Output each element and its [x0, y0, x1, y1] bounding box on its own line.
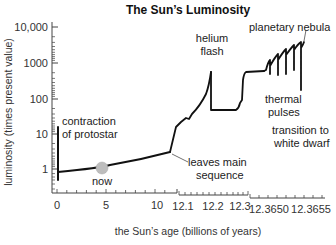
x-tick-10: 10 — [151, 199, 163, 211]
annotation-now: now — [92, 175, 112, 187]
now-marker — [96, 162, 108, 174]
annotation-thermal: thermal — [265, 93, 302, 105]
annotation-sequence: sequence — [196, 169, 244, 181]
x-tick-12-3655: 12.3655 — [291, 203, 331, 215]
annotation-helium: helium — [196, 32, 228, 44]
y-tick-10000: 10,000 — [14, 21, 48, 33]
x-tick-0: 0 — [54, 199, 60, 211]
x-axis-label: the Sun’s age (billions of years) — [115, 225, 261, 237]
x-tick-12-1: 12.1 — [172, 200, 193, 212]
chart-title: The Sun’s Luminosity — [126, 3, 251, 17]
y-tick-10: 10 — [36, 128, 48, 140]
y-tick-100: 100 — [30, 93, 48, 105]
annotation-protostar: of protostar — [62, 128, 118, 140]
annotation-planetary-nebula: planetary nebula — [249, 21, 331, 33]
leaves-main-sequence-leader — [172, 154, 188, 162]
x-tick-12-3: 12.3 — [229, 200, 250, 212]
x-tick-12-2: 12.2 — [202, 200, 223, 212]
x-tick-labels: 0 5 10 12.1 12.2 12.3 12.3650 12.3655 — [54, 199, 331, 215]
annotation-pulses: pulses — [268, 106, 300, 118]
x-tick-5: 5 — [103, 199, 109, 211]
y-tick-labels: 10,000 1000 100 10 1 — [14, 21, 48, 175]
annotation-leaves-main: leaves main — [188, 156, 247, 168]
y-axis-label: luminosity (times present value) — [2, 38, 14, 186]
y-tick-1000: 1000 — [24, 57, 48, 69]
luminosity-chart: The Sun’s Luminosity luminosity (times p… — [0, 0, 336, 245]
annotation-contraction: contraction — [62, 115, 116, 127]
x-axis — [52, 189, 325, 198]
annotation-flash: flash — [200, 45, 223, 57]
annotation-transition-to: transition to — [272, 124, 329, 136]
x-tick-12-3650: 12.3650 — [249, 203, 289, 215]
annotation-white-dwarf: white dwarf — [273, 137, 331, 149]
y-tick-1: 1 — [42, 163, 48, 175]
